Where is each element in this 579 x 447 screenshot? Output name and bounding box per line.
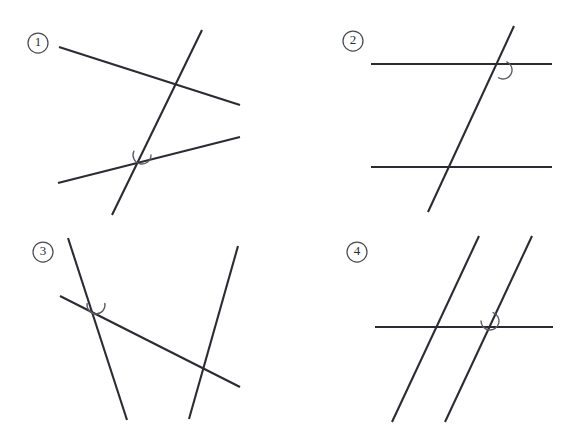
left-parallel [392,236,479,422]
panel-4-canvas: 4 [290,224,579,447]
panel-label-text: 1 [35,34,42,49]
figure-root: 1 2 3 [0,0,579,447]
panel-3-canvas: 3 [0,224,289,447]
diagram-panel-2: 2 [290,0,579,223]
diagram-panel-4: 4 [290,224,579,447]
transversal [60,296,240,387]
panel-4-lines [375,236,553,422]
panel-label-text: 3 [40,243,47,258]
panel-2-canvas: 2 [290,0,579,223]
panel-3-lines [60,238,240,420]
panel-1-canvas: 1 [0,0,289,223]
diagram-panel-3: 3 [0,224,289,447]
panel-label-badge-4: 4 [347,242,367,262]
panel-label-badge-1: 1 [28,33,48,53]
right-parallel [445,236,532,422]
right-steep [189,246,238,419]
panel-label-text: 2 [350,32,357,47]
panel-label-badge-2: 2 [343,31,363,51]
transversal [112,30,202,215]
panel-label-text: 4 [354,243,361,258]
upper-line [59,47,240,105]
left-steep [68,238,127,420]
panel-2-lines [371,26,552,212]
diagram-panel-1: 1 [0,0,289,223]
transversal [428,26,514,212]
panel-label-badge-3: 3 [33,242,53,262]
panel-1-lines [58,30,240,215]
